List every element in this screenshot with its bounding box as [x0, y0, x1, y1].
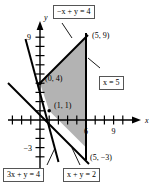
point-label-0-4: (0, 4): [45, 74, 63, 83]
point-label-5-9: (5, 9): [92, 31, 110, 40]
x-axis-label: x: [144, 116, 149, 125]
graph-canvas: 9 −3 6 9 y x (5, 9) (0, 4) (1, 1) (5, −3…: [0, 0, 152, 186]
callout-line-x-equals-5: x = 5: [99, 76, 124, 90]
leader-line-3x-plus-y: [47, 148, 55, 165]
x-tick-label-6: 6: [84, 127, 88, 136]
x-tick-label-9: 9: [112, 127, 116, 136]
y-axis-label: y: [43, 13, 48, 22]
point-label-1-1: (1, 1): [54, 101, 72, 110]
callout-line-x-plus-y: x + y = 2: [63, 168, 100, 182]
shaded-feasible-region: [40, 37, 86, 147]
callout-line-neg-x-plus-y: −x + y = 4: [53, 5, 95, 19]
leader-line-neg-x-plus-y: [62, 23, 72, 38]
y-tick-label-9: 9: [27, 33, 31, 42]
callout-line-3x-plus-y: 3x + y = 4: [3, 168, 44, 182]
coordinate-graph-figure: 9 −3 6 9 y x (5, 9) (0, 4) (1, 1) (5, −3…: [0, 0, 152, 186]
leader-line-x-equals-5: [88, 58, 100, 68]
vertex-dot-1-1: [47, 109, 51, 113]
y-tick-label-neg3: −3: [23, 144, 32, 153]
point-label-5-neg3: (5, −3): [90, 153, 112, 162]
vertex-dot-0-4: [38, 81, 42, 85]
